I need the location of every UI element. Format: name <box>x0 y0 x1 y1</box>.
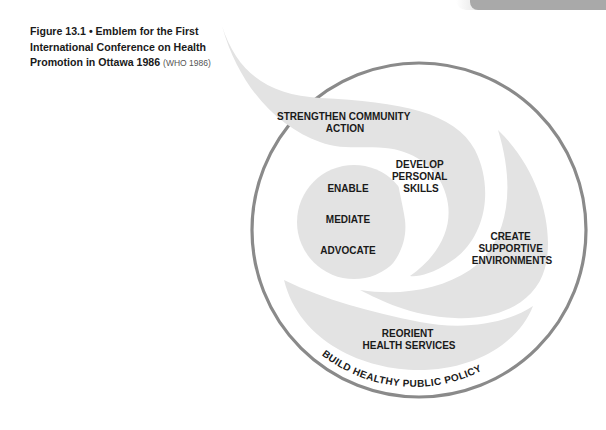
label-line: ENVIRONMENTS <box>472 255 553 266</box>
label-mediate: MEDIATE <box>326 214 371 225</box>
label-line: STRENGTHEN COMMUNITY <box>277 111 411 122</box>
label-advocate: ADVOCATE <box>320 245 376 256</box>
label-line: CREATE <box>490 231 531 242</box>
label-enable: ENABLE <box>327 183 368 194</box>
label-line: ACTION <box>326 123 364 134</box>
label-line: HEALTH SERVICES <box>363 340 456 351</box>
label-line: SUPPORTIVE <box>478 243 543 254</box>
label-line: PERSONAL <box>392 171 447 182</box>
label-line: REORIENT <box>382 328 434 339</box>
ottawa-charter-emblem: STRENGTHEN COMMUNITY ACTION DEVELOP PERS… <box>0 0 606 430</box>
label-line: SKILLS <box>403 183 439 194</box>
label-line: DEVELOP <box>396 159 444 170</box>
